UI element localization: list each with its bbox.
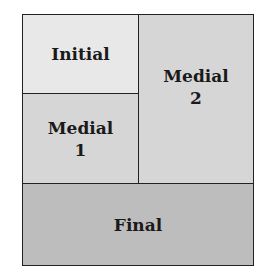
region-final: Final: [23, 183, 253, 265]
region-medial-1: Medial 1: [23, 94, 139, 183]
syllable-structure-diagram: Initial Medial 1 Medial 2 Final: [22, 14, 254, 266]
region-medial-1-label: Medial: [48, 117, 113, 139]
region-initial-label: Initial: [51, 43, 110, 65]
region-initial: Initial: [23, 15, 139, 94]
region-medial-2-label: Medial: [163, 65, 228, 87]
region-medial-2-number: 2: [190, 87, 202, 109]
region-medial-1-number: 1: [75, 139, 87, 161]
region-medial-2: Medial 2: [139, 15, 253, 183]
region-final-label: Final: [114, 214, 162, 236]
